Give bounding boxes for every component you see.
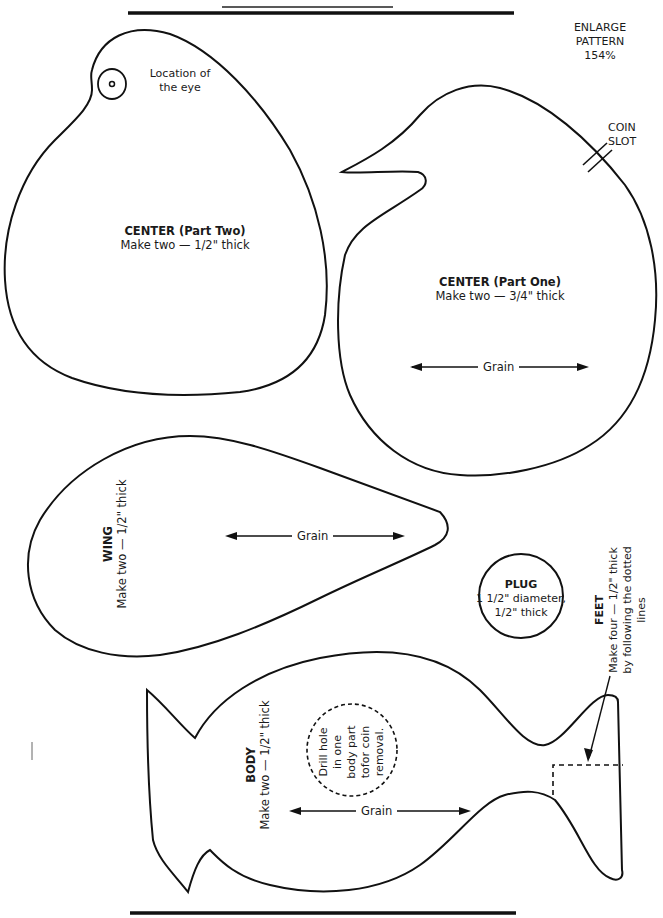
- eye-location-label: Location of the eye: [140, 67, 220, 95]
- center-one-title: CENTER (Part One): [410, 275, 590, 289]
- wing-outline: [28, 436, 448, 656]
- feet-pointer-line: [589, 676, 610, 758]
- arrowhead-right-icon: [459, 807, 471, 815]
- feet-label: FEET Make four — 1/2" thick by following…: [593, 540, 649, 680]
- plug-title: PLUG: [476, 578, 566, 592]
- coin-slot-mark-1: [583, 143, 607, 165]
- center-two-title: CENTER (Part Two): [100, 224, 270, 238]
- eye-inner-dot: [110, 82, 115, 87]
- center-two-label: CENTER (Part Two) Make two — 1/2" thick: [100, 224, 270, 252]
- coin-slot-label: COIN SLOT: [608, 121, 658, 149]
- arrowhead-right-icon: [393, 532, 405, 540]
- grain-label-wing: Grain: [292, 529, 333, 543]
- drill-hole-label: Drill hole in one body part tofor coin r…: [317, 707, 387, 797]
- enlarge-line1: ENLARGE: [560, 21, 640, 35]
- wing-instruction: Make two — 1/2" thick: [115, 479, 129, 609]
- coin-slot-mark-2: [588, 150, 612, 172]
- center-one-label: CENTER (Part One) Make two — 3/4" thick: [410, 275, 590, 303]
- arrowhead-left-icon: [225, 532, 237, 540]
- arrowhead-right-icon: [577, 363, 589, 371]
- body-label: BODY Make two — 1/2" thick: [244, 700, 272, 830]
- grain-label-center-one: Grain: [478, 360, 519, 374]
- enlarge-note: ENLARGE PATTERN 154%: [560, 21, 640, 63]
- center-two-instruction: Make two — 1/2" thick: [100, 238, 270, 252]
- plug-label: PLUG 1 1/2" diameter, 1/2" thick: [476, 578, 566, 620]
- enlarge-percent: 154%: [560, 49, 640, 63]
- wing-title: WING: [101, 479, 115, 609]
- feet-dotted-guide: [553, 765, 623, 795]
- arrowhead-left-icon: [289, 807, 301, 815]
- arrowhead-left-icon: [410, 363, 422, 371]
- center-one-instruction: Make two — 3/4" thick: [410, 289, 590, 303]
- body-instruction: Make two — 1/2" thick: [258, 700, 272, 830]
- body-title: BODY: [244, 700, 258, 830]
- feet-title: FEET: [593, 540, 607, 680]
- enlarge-line2: PATTERN: [560, 35, 640, 49]
- wing-label: WING Make two — 1/2" thick: [101, 479, 129, 609]
- feet-pointer-arrowhead-icon: [584, 748, 593, 762]
- eye-outer-ring: [98, 69, 126, 99]
- grain-label-body: Grain: [356, 804, 397, 818]
